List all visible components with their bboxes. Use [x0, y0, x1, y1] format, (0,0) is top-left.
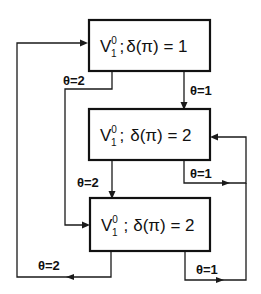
arrowhead-right-icon [222, 180, 230, 186]
arrowhead-right-icon [80, 40, 88, 47]
state-node-3: V01;δ(π) = 2 [90, 198, 210, 251]
edge-label: θ=2 [38, 258, 60, 273]
arrowhead-left-icon [66, 274, 74, 280]
state-node-1: V01;δ(π) = 1 [89, 20, 210, 71]
edge-label: θ=2 [63, 73, 85, 88]
edge-label: θ=1 [196, 262, 218, 277]
edge-label: θ=1 [190, 166, 212, 181]
edge-label: θ=2 [77, 175, 99, 190]
state-node-2: V01;δ(π) = 2 [89, 109, 210, 160]
state-diagram: θ=1 θ=2 θ=2 θ=1 θ=1 θ=2 V01;δ(π) = 1 V01… [0, 0, 261, 294]
edge-label: θ=1 [190, 83, 212, 98]
arrowhead-right-icon [216, 277, 224, 283]
arrowhead-right-icon [82, 222, 90, 229]
arrowhead-left-icon [210, 134, 218, 141]
